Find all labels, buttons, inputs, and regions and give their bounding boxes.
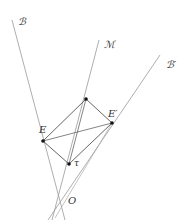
label-E: E — [38, 124, 47, 135]
point-tau — [67, 162, 71, 166]
line-B-prime — [48, 55, 160, 220]
line-aux — [55, 123, 112, 218]
point-top — [84, 97, 88, 101]
label-tau: τ — [74, 158, 80, 168]
geometry-diagram: ℬ ℳ ℬ′ E E′ τ O — [0, 0, 188, 223]
point-E — [41, 139, 45, 143]
label-B: ℬ — [18, 16, 27, 27]
point-E-prime — [110, 121, 114, 125]
label-B-prime: ℬ′ — [166, 59, 177, 70]
label-M: ℳ — [104, 39, 116, 50]
edge-E-top — [43, 99, 86, 141]
label-O: O — [68, 195, 76, 206]
line-B — [12, 20, 65, 220]
label-E-prime: E′ — [107, 108, 118, 119]
line-M — [52, 40, 99, 220]
diagonal-top-tau — [69, 99, 86, 164]
